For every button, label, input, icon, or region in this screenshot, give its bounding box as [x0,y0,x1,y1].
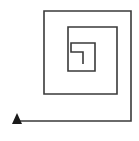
figure-canvas: Square Spiral [0,0,139,141]
square-spiral-figure [0,0,139,141]
